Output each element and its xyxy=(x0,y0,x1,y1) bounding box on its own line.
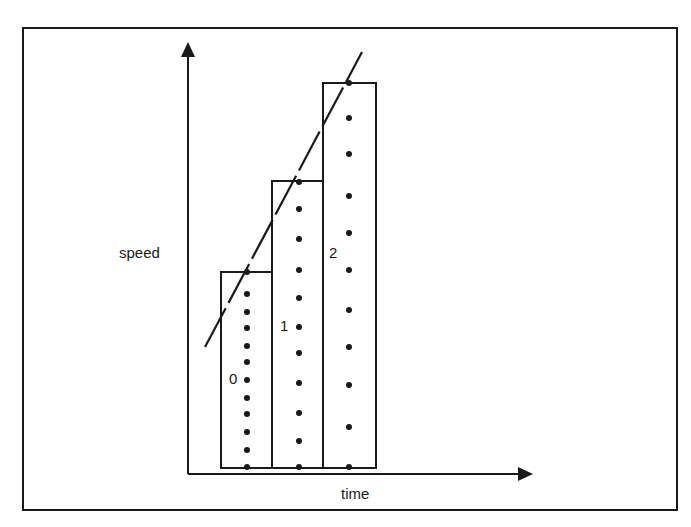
sample-dot xyxy=(296,267,302,273)
sample-dot xyxy=(296,438,302,444)
dots-group xyxy=(244,80,352,470)
sample-dot xyxy=(296,464,302,470)
sample-dot xyxy=(346,151,352,157)
sample-dot xyxy=(244,309,250,315)
sample-dot xyxy=(244,464,250,470)
sample-dot xyxy=(296,206,302,212)
sample-dot xyxy=(346,115,352,121)
sample-dot xyxy=(346,424,352,430)
sample-dot xyxy=(244,343,250,349)
sample-dot xyxy=(346,382,352,388)
sample-dot xyxy=(296,410,302,416)
x-axis-arrowhead-icon xyxy=(518,467,533,481)
axes xyxy=(181,42,533,481)
sample-dot xyxy=(244,377,250,383)
sample-dot xyxy=(244,429,250,435)
sample-dot xyxy=(346,344,352,350)
sample-dot xyxy=(244,447,250,453)
bar-2 xyxy=(323,83,376,468)
sample-dot xyxy=(296,324,302,330)
trend-line xyxy=(205,52,362,347)
diagram-canvas: speed time 0 1 2 xyxy=(0,0,691,527)
bar-label-0: 0 xyxy=(229,371,237,386)
sample-dot xyxy=(296,236,302,242)
speed-time-plot xyxy=(0,0,691,527)
sample-dot xyxy=(346,464,352,470)
sample-dot xyxy=(296,380,302,386)
sample-dot xyxy=(244,291,250,297)
bar-label-2: 2 xyxy=(329,245,337,260)
sample-dot xyxy=(296,350,302,356)
y-axis-arrowhead-icon xyxy=(181,42,195,57)
sample-dot xyxy=(346,267,352,273)
dashed-trend-line xyxy=(205,52,362,347)
y-axis-label: speed xyxy=(119,245,160,260)
sample-dot xyxy=(244,359,250,365)
bar-label-1: 1 xyxy=(280,318,288,333)
x-axis-label: time xyxy=(341,486,369,501)
sample-dot xyxy=(346,307,352,313)
sample-dot xyxy=(346,193,352,199)
sample-dot xyxy=(296,295,302,301)
sample-dot xyxy=(346,230,352,236)
sample-dot xyxy=(244,411,250,417)
sample-dot xyxy=(244,395,250,401)
sample-dot xyxy=(244,325,250,331)
sample-dot xyxy=(296,179,302,185)
